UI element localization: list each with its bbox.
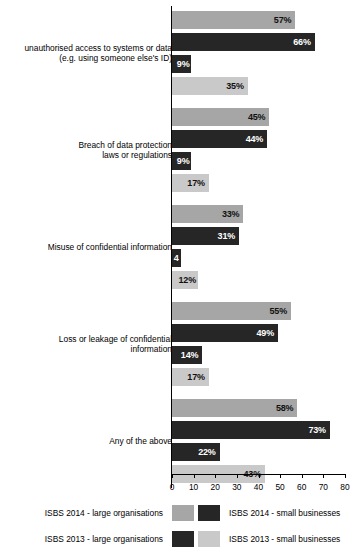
x-axis-tick bbox=[259, 474, 260, 478]
category-label: Breach of data protection laws or regula… bbox=[78, 140, 172, 161]
bar-value-label: 4 bbox=[174, 253, 179, 263]
bar: 14% bbox=[172, 346, 202, 364]
bar: 49% bbox=[172, 324, 278, 342]
legend-label-2014-small: ISBS 2014 - small businesses bbox=[220, 508, 340, 518]
legend-swatch-2014-large bbox=[172, 505, 194, 521]
category-label: Misuse of confidential information bbox=[48, 242, 172, 252]
x-axis-tick-label: 80 bbox=[340, 482, 349, 492]
bar: 55% bbox=[172, 302, 291, 320]
bar-value-label: 14% bbox=[181, 350, 198, 360]
bar: 66% bbox=[172, 33, 315, 51]
bar-value-label: 9% bbox=[177, 156, 190, 166]
legend-row: ISBS 2013 - large organisations ISBS 201… bbox=[0, 528, 358, 550]
x-axis-tick-label: 0 bbox=[170, 482, 175, 492]
bar: 17% bbox=[172, 174, 209, 192]
bar-value-label: 44% bbox=[246, 134, 263, 144]
bar-value-label: 17% bbox=[187, 372, 204, 382]
bar-chart: 57%66%9%35%45%44%9%17%33%31%412%55%49%14… bbox=[0, 0, 358, 560]
bar: 4 bbox=[172, 249, 181, 267]
x-axis-tick bbox=[237, 474, 238, 478]
legend-label-2013-small: ISBS 2013 - small businesses bbox=[220, 534, 340, 544]
x-axis-tick-label: 60 bbox=[297, 482, 306, 492]
x-axis-tick-label: 50 bbox=[275, 482, 284, 492]
bar: 22% bbox=[172, 443, 220, 461]
bar: 33% bbox=[172, 205, 243, 223]
bar-value-label: 9% bbox=[177, 59, 190, 69]
bar: 35% bbox=[172, 77, 248, 95]
bar-value-label: 55% bbox=[270, 306, 287, 316]
bar: 12% bbox=[172, 271, 198, 289]
x-axis-tick bbox=[302, 474, 303, 478]
bar: 9% bbox=[172, 152, 191, 170]
bar-value-label: 22% bbox=[198, 447, 215, 457]
x-axis-tick-label: 20 bbox=[211, 482, 220, 492]
bar: 73% bbox=[172, 421, 330, 439]
legend-swatch-2014-small bbox=[198, 505, 220, 521]
bar-value-label: 49% bbox=[257, 328, 274, 338]
legend-row: ISBS 2014 - large organisations ISBS 201… bbox=[0, 502, 358, 524]
x-axis-tick bbox=[323, 474, 324, 478]
bar: 17% bbox=[172, 368, 209, 386]
x-axis-tick bbox=[215, 474, 216, 478]
bar: 44% bbox=[172, 130, 267, 148]
category-label: unauthorised access to systems or data (… bbox=[24, 43, 172, 64]
bar-value-label: 35% bbox=[226, 81, 243, 91]
plot-area: 57%66%9%35%45%44%9%17%33%31%412%55%49%14… bbox=[0, 0, 358, 478]
legend-label-2013-large: ISBS 2013 - large organisations bbox=[0, 534, 172, 544]
bar: 58% bbox=[172, 399, 297, 417]
x-axis-tick-label: 70 bbox=[319, 482, 328, 492]
bar-value-label: 45% bbox=[248, 112, 265, 122]
bar-value-label: 17% bbox=[187, 178, 204, 188]
x-axis-tick bbox=[194, 474, 195, 478]
bar-value-label: 66% bbox=[293, 37, 310, 47]
bar-value-label: 73% bbox=[308, 425, 325, 435]
x-axis-tick bbox=[172, 474, 173, 478]
category-label: Any of the above bbox=[109, 436, 172, 446]
x-axis-tick-label: 10 bbox=[189, 482, 198, 492]
bar: 9% bbox=[172, 55, 191, 73]
bar: 31% bbox=[172, 227, 239, 245]
x-axis-tick bbox=[280, 474, 281, 478]
bar-value-label: 57% bbox=[274, 15, 291, 25]
legend-swatch-2013-small bbox=[198, 531, 220, 547]
x-axis-tick-label: 30 bbox=[232, 482, 241, 492]
legend-swatch-2013-large bbox=[172, 531, 194, 547]
x-axis-tick-label: 40 bbox=[254, 482, 263, 492]
bar: 45% bbox=[172, 108, 269, 126]
chart-legend: ISBS 2014 - large organisations ISBS 201… bbox=[0, 498, 358, 552]
bar: 57% bbox=[172, 11, 295, 29]
bar-value-label: 12% bbox=[179, 275, 196, 285]
bar-value-label: 31% bbox=[218, 231, 235, 241]
bar-value-label: 58% bbox=[276, 403, 293, 413]
bar-value-label: 33% bbox=[222, 209, 239, 219]
category-label: Loss or leakage of confidential informat… bbox=[59, 334, 172, 355]
x-axis-tick bbox=[345, 474, 346, 478]
legend-label-2014-large: ISBS 2014 - large organisations bbox=[0, 508, 172, 518]
